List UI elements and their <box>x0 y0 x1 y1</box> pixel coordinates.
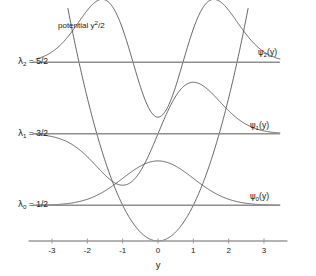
psi-symbol: ψ <box>258 47 264 57</box>
potential-curve <box>68 9 248 241</box>
psi0-curve <box>36 161 280 205</box>
x-tick-label-5: 2 <box>226 247 230 255</box>
psi2-label: ψ2(y) <box>258 48 277 57</box>
lambda-subscript: 1 <box>23 132 26 139</box>
psi2-curve <box>36 0 280 117</box>
energy-level-2-label: λ2 = 5/2 <box>18 57 48 66</box>
psi-argument: (y) <box>259 191 269 201</box>
psi0-label: ψ0(y) <box>250 192 269 201</box>
psi-subscript: 1 <box>256 124 259 131</box>
figure-canvas: λ2 = 5/2 λ1 = 3/2 λ0 = 1/2 ψ2(y) ψ1(y) ψ… <box>0 0 316 276</box>
lambda-subscript: 0 <box>23 203 26 210</box>
plot-area <box>0 0 316 276</box>
lambda-subscript: 2 <box>23 60 26 67</box>
psi-symbol: ψ <box>250 120 256 130</box>
energy-level-0-value: 1/2 <box>36 199 48 209</box>
potential-label-text: potential y <box>58 21 94 30</box>
equals-sign: = <box>29 199 34 209</box>
psi-argument: (y) <box>267 47 277 57</box>
x-axis-group <box>29 239 288 244</box>
x-tick-label-2: -1 <box>119 247 126 255</box>
psi-symbol: ψ <box>250 191 256 201</box>
energy-level-0-label: λ0 = 1/2 <box>18 200 48 209</box>
equals-sign: = <box>29 56 34 66</box>
psi-argument: (y) <box>259 120 269 130</box>
x-tick-label-4: 1 <box>191 247 195 255</box>
x-tick-label-3: 0 <box>156 247 160 255</box>
equals-sign: = <box>29 128 34 138</box>
x-tick-label-0: -3 <box>48 247 55 255</box>
x-tick-label-1: -2 <box>84 247 91 255</box>
energy-levels-group <box>33 62 280 205</box>
energy-level-2-value: 5/2 <box>36 56 48 66</box>
psi-subscript: 0 <box>256 195 259 202</box>
energy-level-1-label: λ1 = 3/2 <box>18 129 48 138</box>
potential-label: potential y2/2 <box>58 22 105 30</box>
potential-label-exponent: 2 <box>94 19 97 26</box>
psi-subscript: 2 <box>264 51 267 58</box>
energy-level-1-value: 3/2 <box>36 128 48 138</box>
x-axis-title: y <box>156 260 161 270</box>
x-tick-label-6: 3 <box>262 247 266 255</box>
potential-label-tail: /2 <box>98 21 105 30</box>
psi1-label: ψ1(y) <box>250 121 269 130</box>
